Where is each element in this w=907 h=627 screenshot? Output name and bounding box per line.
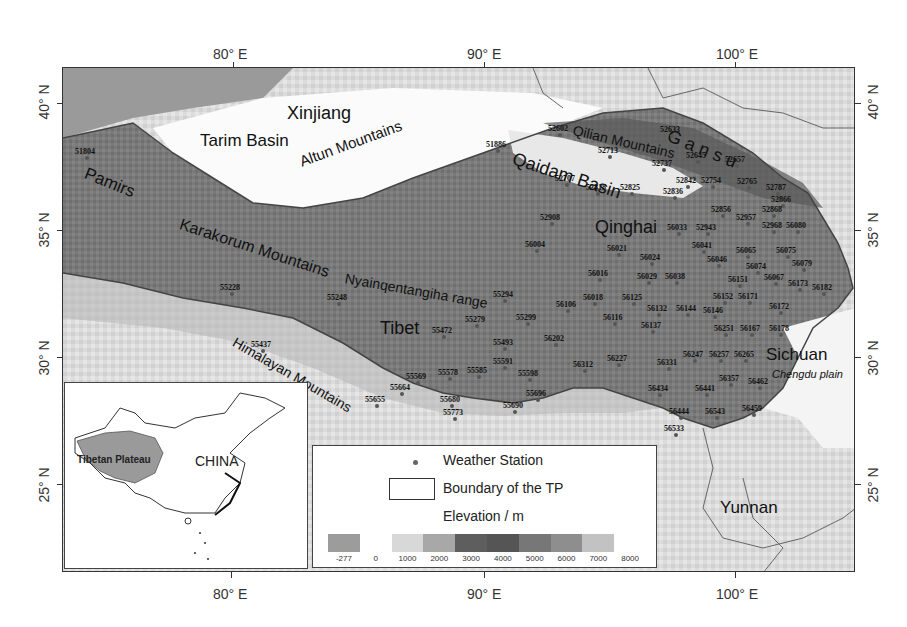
station-dot-icon[interactable] [756, 271, 760, 275]
station-dot-icon[interactable] [686, 313, 690, 317]
station-dot-icon[interactable] [772, 214, 776, 218]
station-dot-icon[interactable] [758, 386, 762, 390]
station-dot-icon[interactable] [617, 253, 621, 257]
station-dot-icon[interactable] [696, 160, 700, 164]
station-dot-icon[interactable] [686, 185, 690, 189]
station-dot-icon[interactable] [477, 375, 481, 379]
station-dot-icon[interactable] [647, 281, 651, 285]
lat-label-35n-right: 35° N [865, 212, 881, 247]
station-dot-icon[interactable] [632, 302, 636, 306]
station-dot-icon[interactable] [667, 367, 671, 371]
station-dot-icon[interactable] [719, 359, 723, 363]
station-dot-icon[interactable] [724, 333, 728, 337]
station-dot-icon[interactable] [416, 381, 420, 385]
station-dot-icon[interactable] [651, 330, 655, 334]
china-outline [65, 383, 307, 568]
station-dot-icon[interactable] [674, 433, 678, 437]
station-dot-icon[interactable] [630, 192, 634, 196]
station-dot-icon[interactable] [723, 301, 727, 305]
station-dot-icon[interactable] [230, 292, 234, 296]
station-dot-icon[interactable] [738, 284, 742, 288]
station-dot-icon[interactable] [717, 264, 721, 268]
station-dot-icon[interactable] [746, 222, 750, 226]
station-dot-icon[interactable] [503, 347, 507, 351]
station-dot-icon[interactable] [550, 222, 554, 226]
station-dot-icon[interactable] [528, 378, 532, 382]
station-dot-icon[interactable] [496, 149, 500, 153]
station-label: 56041 [692, 241, 712, 250]
station-dot-icon[interactable] [85, 156, 89, 160]
station-dot-icon[interactable] [657, 313, 661, 317]
station-dot-icon[interactable] [442, 335, 446, 339]
station-dot-icon[interactable] [746, 255, 750, 259]
station-dot-icon[interactable] [526, 322, 530, 326]
station-dot-icon[interactable] [337, 302, 341, 306]
station-dot-icon[interactable] [566, 309, 570, 313]
station-dot-icon[interactable] [583, 369, 587, 373]
station-dot-icon[interactable] [261, 349, 265, 353]
station-dot-icon[interactable] [593, 302, 597, 306]
station-dot-icon[interactable] [729, 383, 733, 387]
legend-station-label: Weather Station [443, 452, 543, 468]
station-dot-icon[interactable] [772, 230, 776, 234]
station-dot-icon[interactable] [596, 192, 600, 196]
station-label: 56444 [669, 407, 689, 416]
station-dot-icon[interactable] [706, 232, 710, 236]
station-dot-icon[interactable] [554, 343, 558, 347]
station-dot-icon[interactable] [748, 301, 752, 305]
station-dot-icon[interactable] [747, 186, 751, 190]
station-dot-icon[interactable] [673, 196, 677, 200]
station-dot-icon[interactable] [752, 413, 756, 417]
station-dot-icon[interactable] [802, 268, 806, 272]
station-dot-icon[interactable] [702, 250, 706, 254]
station-dot-icon[interactable] [796, 230, 800, 234]
station-dot-icon[interactable] [779, 311, 783, 315]
station-dot-icon[interactable] [400, 392, 404, 396]
station-dot-icon[interactable] [693, 359, 697, 363]
station-label: 56125 [622, 293, 642, 302]
station-dot-icon[interactable] [617, 363, 621, 367]
station-dot-icon[interactable] [677, 232, 681, 236]
station-dot-icon[interactable] [503, 366, 507, 370]
station-dot-icon[interactable] [650, 262, 654, 266]
station-dot-icon[interactable] [705, 393, 709, 397]
station-dot-icon[interactable] [798, 288, 802, 292]
station-dot-icon[interactable] [375, 404, 379, 408]
region-label-yunnan: Yunnan [720, 498, 778, 518]
station-label: 56171 [738, 292, 758, 301]
station-dot-icon[interactable] [711, 185, 715, 189]
station-label: 56227 [607, 354, 627, 363]
station-dot-icon[interactable] [670, 134, 674, 138]
station-dot-icon[interactable] [774, 282, 778, 286]
station-dot-icon[interactable] [679, 416, 683, 420]
station-dot-icon[interactable] [448, 377, 452, 381]
station-dot-icon[interactable] [713, 315, 717, 319]
station-label: 55578 [438, 368, 458, 377]
station-dot-icon[interactable] [735, 164, 739, 168]
station-dot-icon[interactable] [750, 333, 754, 337]
station-dot-icon[interactable] [675, 281, 679, 285]
station-dot-icon[interactable] [658, 393, 662, 397]
station-dot-icon[interactable] [662, 168, 666, 172]
station-dot-icon[interactable] [744, 359, 748, 363]
station-dot-icon[interactable] [513, 410, 517, 414]
station-dot-icon[interactable] [721, 214, 725, 218]
station-dot-icon[interactable] [453, 417, 457, 421]
station-dot-icon[interactable] [558, 133, 562, 137]
station-dot-icon[interactable] [535, 249, 539, 253]
station-dot-icon[interactable] [779, 333, 783, 337]
station-dot-icon[interactable] [598, 278, 602, 282]
lon-label-100e-top: 100° E [716, 46, 758, 62]
station-dot-icon[interactable] [613, 322, 617, 326]
colorbar-tick-label: 1000 [399, 554, 417, 563]
station-label: 55598 [518, 369, 538, 378]
station-dot-icon[interactable] [608, 155, 612, 159]
station-label: 56462 [748, 377, 768, 386]
station-dot-icon[interactable] [475, 324, 479, 328]
station-dot-icon[interactable] [715, 416, 719, 420]
station-dot-icon[interactable] [503, 299, 507, 303]
station-dot-icon[interactable] [565, 183, 569, 187]
station-dot-icon[interactable] [822, 292, 826, 296]
station-dot-icon[interactable] [536, 398, 540, 402]
station-dot-icon[interactable] [786, 255, 790, 259]
